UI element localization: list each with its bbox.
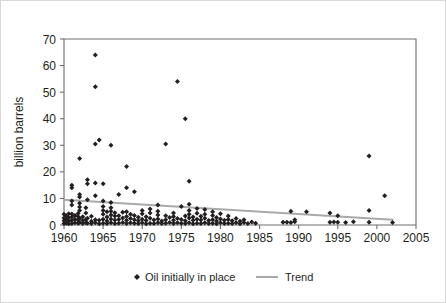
y-axis-title: billion barrels xyxy=(12,97,26,168)
chart-legend: Oil initially in placeTrend xyxy=(134,271,313,283)
y-axis-title-text: billion barrels xyxy=(12,97,26,168)
chart-figure: 1960196519701975198019851990199520002005… xyxy=(0,0,446,303)
y-axis-tick-labels: 010203040506070 xyxy=(43,33,57,233)
y-tick-label: 40 xyxy=(43,112,57,126)
scatter-plot: 1960196519701975198019851990199520002005… xyxy=(1,1,446,303)
y-tick-label: 30 xyxy=(43,139,57,153)
x-tick-label: 1965 xyxy=(90,231,117,245)
x-tick-label: 1985 xyxy=(246,231,273,245)
plot-frame xyxy=(60,39,416,229)
legend-trend-label: Trend xyxy=(285,271,313,283)
x-tick-label: 1995 xyxy=(324,231,351,245)
legend-diamond-icon xyxy=(134,274,140,280)
y-tick-label: 50 xyxy=(43,86,57,100)
legend-series-label: Oil initially in place xyxy=(145,271,235,283)
x-tick-label: 2005 xyxy=(403,231,430,245)
y-tick-label: 10 xyxy=(43,192,57,206)
x-tick-label: 1975 xyxy=(168,231,195,245)
y-tick-label: 20 xyxy=(43,165,57,179)
x-axis-tick-labels: 1960196519701975198019851990199520002005 xyxy=(51,231,430,245)
data-points xyxy=(62,52,396,226)
y-tick-label: 70 xyxy=(43,33,57,47)
x-tick-label: 1990 xyxy=(285,231,312,245)
y-tick-label: 60 xyxy=(43,59,57,73)
y-tick-label: 0 xyxy=(49,219,56,233)
x-tick-label: 1980 xyxy=(207,231,234,245)
x-tick-label: 1960 xyxy=(51,231,78,245)
x-tick-label: 1970 xyxy=(129,231,156,245)
x-tick-label: 2000 xyxy=(364,231,391,245)
